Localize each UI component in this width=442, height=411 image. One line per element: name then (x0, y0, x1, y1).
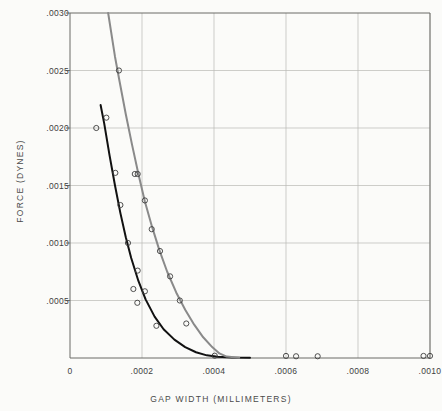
y-tick-label: .0005 (46, 296, 69, 306)
x-tick-label: 0 (67, 366, 72, 376)
x-tick-label: .0008 (347, 366, 370, 376)
x-tick-label: .0010 (419, 366, 442, 376)
data-point-markers (94, 68, 433, 359)
y-tick-label: .0030 (46, 8, 69, 18)
grid-lines (70, 13, 430, 358)
y-axis-title: FORCE (DYNES) (15, 121, 25, 241)
y-tick-label: .0010 (46, 238, 69, 248)
y-tick-label: .0015 (46, 181, 69, 191)
y-tick-label: .0020 (46, 123, 69, 133)
y-tick-label: .0025 (46, 66, 69, 76)
force-vs-gap-width-chart (0, 0, 442, 411)
x-tick-label: .0006 (275, 366, 298, 376)
x-tick-label: .0002 (131, 366, 154, 376)
x-axis-title: GAP WIDTH (MILLIMETERS) (0, 394, 442, 404)
x-tick-label: .0004 (203, 366, 226, 376)
